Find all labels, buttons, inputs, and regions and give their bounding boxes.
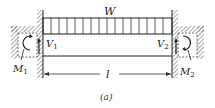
svg-text:V2: V2: [157, 38, 169, 51]
svg-text:M2: M2: [179, 66, 195, 79]
fixed-beam-diagram: W V1 V2 M1 M2 l (a): [0, 0, 215, 108]
load-label: W: [104, 5, 117, 18]
svg-text:M1: M1: [12, 63, 28, 76]
moment-label-right: M: [179, 66, 191, 77]
moment-label-left: M: [12, 63, 24, 74]
figure-caption: (a): [100, 92, 113, 102]
distributed-load: [43, 18, 172, 34]
length-label: l: [106, 68, 110, 81]
svg-text:V1: V1: [46, 38, 58, 51]
